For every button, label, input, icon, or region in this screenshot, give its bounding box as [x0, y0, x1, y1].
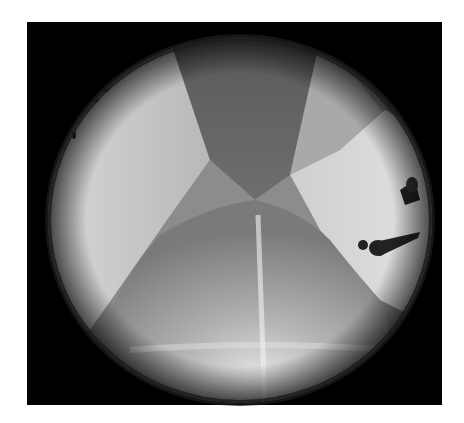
- fisheye-photo: [0, 0, 464, 423]
